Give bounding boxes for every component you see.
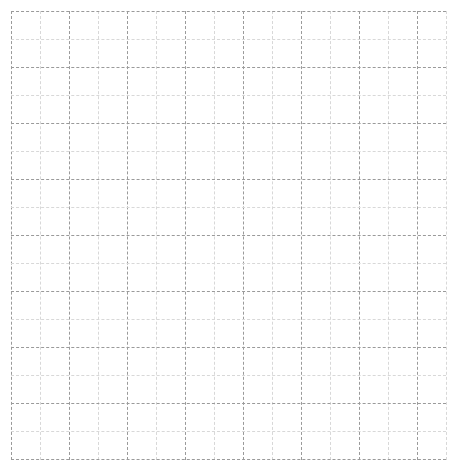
grid-line-horizontal [11,235,446,236]
grid-line-horizontal [11,431,446,432]
grid-line-vertical [446,11,447,460]
grid-line-horizontal [11,319,446,320]
grid-line-horizontal [11,67,446,68]
grid-line-horizontal [11,207,446,208]
grid-line-horizontal [11,291,446,292]
grid-line-horizontal [11,95,446,96]
grid-line-horizontal [11,459,446,460]
grid-line-horizontal [11,347,446,348]
grid-line-horizontal [11,123,446,124]
grid-line-horizontal [11,375,446,376]
grid-line-horizontal [11,263,446,264]
grid-plot-area [11,11,446,460]
grid-line-horizontal [11,179,446,180]
grid-line-horizontal [11,403,446,404]
grid-line-horizontal [11,39,446,40]
grid-line-horizontal [11,151,446,152]
screenshot-canvas [0,0,457,472]
grid-line-horizontal [11,11,446,12]
